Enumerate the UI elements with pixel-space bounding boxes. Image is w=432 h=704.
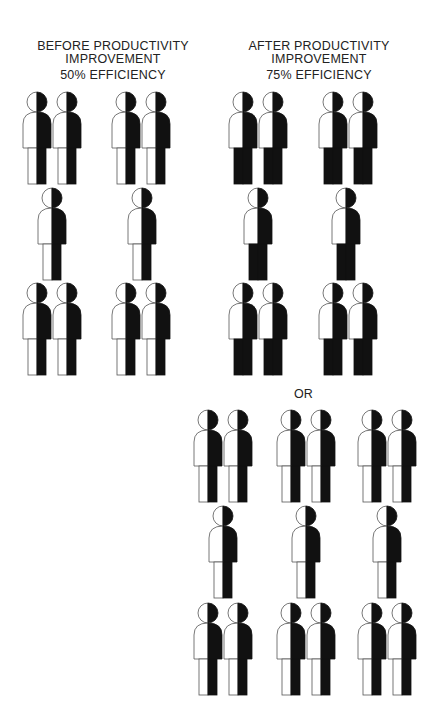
person-figure-icon xyxy=(23,283,51,375)
person-figure-icon xyxy=(259,92,287,184)
person-figure-icon xyxy=(388,410,416,502)
person-figure-icon xyxy=(388,603,416,695)
person-figure-icon xyxy=(292,506,320,598)
person-figure-icon xyxy=(259,283,287,375)
person-figure-icon xyxy=(112,283,140,375)
person-figure-icon xyxy=(229,283,257,375)
person-figure-icon xyxy=(229,92,257,184)
person-figure-icon xyxy=(349,283,377,375)
person-figure-icon xyxy=(142,283,170,375)
person-figure-icon xyxy=(53,92,81,184)
person-figure-icon xyxy=(277,410,305,502)
person-figure-icon xyxy=(224,603,252,695)
person-figure-icon xyxy=(358,603,386,695)
person-figure-icon xyxy=(194,410,222,502)
person-figure-icon xyxy=(358,410,386,502)
person-figure-icon xyxy=(209,506,237,598)
person-figure-icon xyxy=(38,188,66,280)
person-figure-icon xyxy=(224,410,252,502)
person-figure-icon xyxy=(319,92,347,184)
person-figure-icon xyxy=(373,506,401,598)
person-figure-icon xyxy=(194,603,222,695)
figures-canvas xyxy=(0,0,432,704)
person-figure-icon xyxy=(23,92,51,184)
person-figure-icon xyxy=(53,283,81,375)
alternative-figures-group xyxy=(194,410,416,695)
before-figures-group xyxy=(23,92,170,375)
after-figures-group xyxy=(229,92,377,375)
person-figure-icon xyxy=(307,410,335,502)
person-figure-icon xyxy=(277,603,305,695)
person-figure-icon xyxy=(244,188,272,280)
person-figure-icon xyxy=(307,603,335,695)
person-figure-icon xyxy=(112,92,140,184)
person-figure-icon xyxy=(142,92,170,184)
person-figure-icon xyxy=(349,92,377,184)
person-figure-icon xyxy=(319,283,347,375)
person-figure-icon xyxy=(332,188,360,280)
person-figure-icon xyxy=(128,188,156,280)
